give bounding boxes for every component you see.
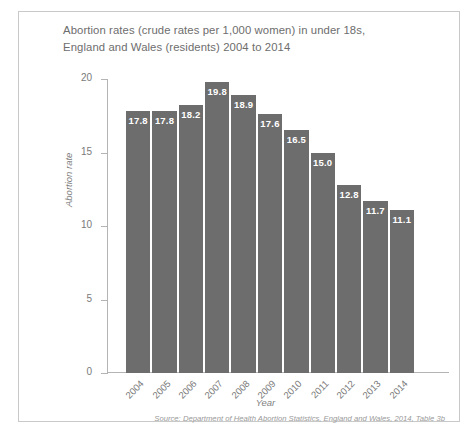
y-axis-tick-label: 20 bbox=[81, 72, 92, 83]
chart-title-line-2: England and Wales (residents) 2004 to 20… bbox=[63, 41, 290, 53]
bar-column: 15.0 bbox=[311, 79, 335, 373]
bar-series: 17.817.818.219.818.917.616.515.012.811.7… bbox=[126, 79, 414, 373]
bar-column: 11.7 bbox=[363, 79, 387, 373]
bar-value-label: 17.6 bbox=[258, 118, 282, 129]
bar-column: 11.1 bbox=[390, 79, 414, 373]
bar[interactable]: 19.8 bbox=[205, 82, 229, 373]
bar[interactable]: 12.8 bbox=[337, 185, 361, 373]
bar[interactable]: 11.1 bbox=[390, 210, 414, 373]
bar[interactable]: 17.8 bbox=[152, 111, 176, 373]
bar[interactable]: 11.7 bbox=[363, 201, 387, 373]
bar-value-label: 18.9 bbox=[231, 99, 255, 110]
bar[interactable]: 16.5 bbox=[284, 130, 308, 373]
chart-title: Abortion rates (crude rates per 1,000 wo… bbox=[63, 22, 433, 56]
bar[interactable]: 18.2 bbox=[179, 105, 203, 373]
y-axis-tick: 20 bbox=[101, 79, 108, 80]
source-note: Source: Department of Health Abortion St… bbox=[154, 414, 445, 423]
chart-frame: Abortion rates (crude rates per 1,000 wo… bbox=[18, 11, 460, 422]
y-axis-tick-label: 15 bbox=[81, 146, 92, 157]
bar-column: 17.8 bbox=[126, 79, 150, 373]
y-axis-tick: 0 bbox=[101, 373, 108, 374]
bar[interactable]: 18.9 bbox=[231, 95, 255, 373]
bar[interactable]: 17.6 bbox=[258, 114, 282, 373]
y-axis-title: Abortion rate bbox=[63, 153, 74, 207]
bar-value-label: 17.8 bbox=[126, 115, 150, 126]
bar[interactable]: 15.0 bbox=[311, 153, 335, 374]
y-axis-tick-label: 0 bbox=[86, 366, 92, 377]
plot-area: 20151050 17.817.818.219.818.917.616.515.… bbox=[107, 79, 449, 373]
bar-value-label: 18.2 bbox=[179, 109, 203, 120]
y-axis-tick-label: 5 bbox=[86, 293, 92, 304]
x-axis-title: Year bbox=[107, 397, 424, 408]
bar-column: 19.8 bbox=[205, 79, 229, 373]
y-axis-tick-label: 10 bbox=[81, 219, 92, 230]
y-axis-tick: 15 bbox=[101, 153, 108, 154]
y-axis-tick: 5 bbox=[101, 300, 108, 301]
bar-column: 17.8 bbox=[152, 79, 176, 373]
chart-title-line-1: Abortion rates (crude rates per 1,000 wo… bbox=[63, 24, 365, 36]
bar-column: 12.8 bbox=[337, 79, 361, 373]
y-axis-tick: 10 bbox=[101, 226, 108, 227]
bar-column: 18.9 bbox=[231, 79, 255, 373]
bar-value-label: 11.1 bbox=[390, 214, 414, 225]
bar-value-label: 17.8 bbox=[152, 115, 176, 126]
bar-value-label: 16.5 bbox=[284, 134, 308, 145]
bar[interactable]: 17.8 bbox=[126, 111, 150, 373]
bar-column: 18.2 bbox=[179, 79, 203, 373]
bar-column: 16.5 bbox=[284, 79, 308, 373]
bar-value-label: 11.7 bbox=[363, 205, 387, 216]
bar-value-label: 15.0 bbox=[311, 157, 335, 168]
bar-value-label: 12.8 bbox=[337, 189, 361, 200]
bar-column: 17.6 bbox=[258, 79, 282, 373]
bar-value-label: 19.8 bbox=[205, 86, 229, 97]
